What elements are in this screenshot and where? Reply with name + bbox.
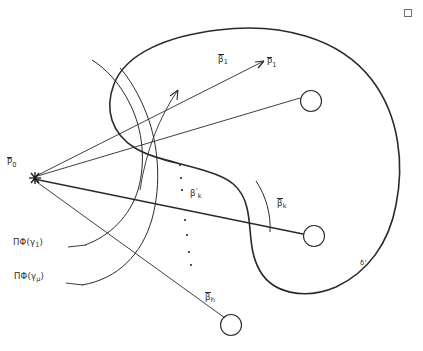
label-pi-phi-gamma-1-tail: ) (39, 237, 43, 247)
leader-gamma-mu (66, 283, 83, 285)
label-region-delta-prime: δ' (360, 260, 367, 267)
leader-gamma-1 (68, 245, 86, 247)
label-beta-k-symbol: β (277, 199, 283, 208)
label-beta-1-sub: 1 (224, 58, 228, 66)
ray-to-circle-mid (34, 179, 303, 234)
label-pi-phi-gamma-mu-tail: ) (40, 271, 44, 281)
label-beta-h-symbol: β (205, 293, 211, 302)
label-beta-h-sub: h (211, 296, 215, 304)
endpoint-circle-top (301, 91, 322, 112)
label-pi-phi-gamma-mu-head: ΠΦ(γ (14, 271, 36, 281)
label-beta-k: βk (277, 199, 286, 210)
ellipsis-dots (179, 164, 192, 266)
curve-gamma-mu-path (82, 68, 158, 285)
ray-to-circle-bottom (34, 180, 225, 318)
label-beta-prime-k: β'k (190, 188, 201, 200)
corner-square-icon (404, 9, 412, 17)
label-pi-phi-gamma-1-head: ΠΦ(γ (13, 237, 35, 247)
label-pi-phi-gamma-mu: ΠΦ(γμ) (14, 272, 44, 283)
endpoint-circle-bottom (221, 315, 242, 336)
label-beta-prime-sub: k (198, 192, 202, 200)
label-point-p1-symbol: P (267, 58, 272, 67)
label-base-point-symbol: P (7, 158, 12, 167)
label-beta-h: βh (205, 293, 215, 304)
label-base-point-sub: 0 (12, 161, 16, 169)
label-beta-1-symbol: β (218, 55, 224, 64)
label-beta-k-sub: k (283, 202, 287, 210)
label-base-point: P0 (7, 158, 17, 169)
label-pi-phi-gamma-1: ΠΦ(γ1) (13, 238, 43, 249)
endpoint-circle-mid (304, 226, 325, 247)
label-point-p1: P1 (267, 58, 277, 69)
label-point-p1-sub: 1 (272, 61, 276, 69)
base-point-marker (29, 172, 41, 184)
inner-arrow-head (170, 90, 178, 100)
region-boundary-path (110, 28, 400, 294)
label-beta-1: β1 (218, 55, 228, 66)
